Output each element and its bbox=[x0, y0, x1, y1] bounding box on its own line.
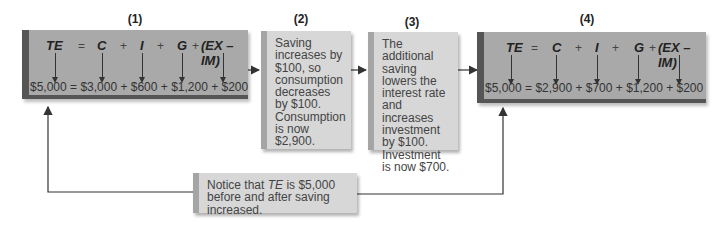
step-1-label: (1) bbox=[115, 12, 155, 26]
down-arrow-icon bbox=[223, 53, 224, 78]
step-4-equation-box: TE = C + I + G + (EX – IM) $5,000 = $2,9… bbox=[477, 32, 706, 103]
note-box: Notice that TE is $5,000 before and afte… bbox=[193, 173, 357, 213]
step-1-equation-box: TE = C + I + G + (EX – IM) $5,000 = $3,0… bbox=[22, 30, 248, 99]
step-2-label: (2) bbox=[281, 12, 321, 26]
g-symbol: G bbox=[177, 38, 187, 53]
down-arrow-icon bbox=[511, 55, 512, 80]
down-arrow-icon bbox=[597, 55, 598, 80]
c-symbol: C bbox=[97, 38, 106, 53]
down-arrow-icon bbox=[102, 53, 103, 78]
te-symbol: TE bbox=[46, 38, 63, 53]
plus-sign: + bbox=[649, 41, 656, 55]
equals-sign: = bbox=[78, 39, 85, 53]
step-3-box: The additional saving lowers the interes… bbox=[368, 32, 458, 150]
step-1-values: $5,000 = $3,000 + $600 + $1,200 + $200 bbox=[30, 80, 248, 94]
plus-sign: + bbox=[612, 41, 619, 55]
g-symbol: G bbox=[634, 40, 644, 55]
i-symbol: I bbox=[140, 38, 144, 53]
plus-sign: + bbox=[157, 39, 164, 53]
equals-sign: = bbox=[531, 41, 538, 55]
net-exports-symbol: (EX – IM) bbox=[658, 40, 706, 70]
down-arrow-icon bbox=[556, 55, 557, 80]
c-symbol: C bbox=[552, 40, 561, 55]
down-arrow-icon bbox=[55, 53, 56, 78]
i-symbol: I bbox=[595, 40, 599, 55]
net-exports-symbol: (EX – IM) bbox=[201, 38, 248, 68]
down-arrow-icon bbox=[182, 53, 183, 78]
down-arrow-icon bbox=[142, 53, 143, 78]
step-4-label: (4) bbox=[567, 12, 607, 26]
plus-sign: + bbox=[575, 41, 582, 55]
plus-sign: + bbox=[192, 39, 199, 53]
step-4-values: $5,000 = $2,900 + $700 + $1,200 + $200 bbox=[485, 81, 703, 95]
down-arrow-icon bbox=[679, 55, 680, 80]
te-symbol: TE bbox=[506, 40, 523, 55]
down-arrow-icon bbox=[638, 55, 639, 80]
step-3-label: (3) bbox=[392, 15, 432, 29]
plus-sign: + bbox=[120, 39, 127, 53]
step-2-box: Saving increases by $100, so consumption… bbox=[261, 31, 351, 149]
